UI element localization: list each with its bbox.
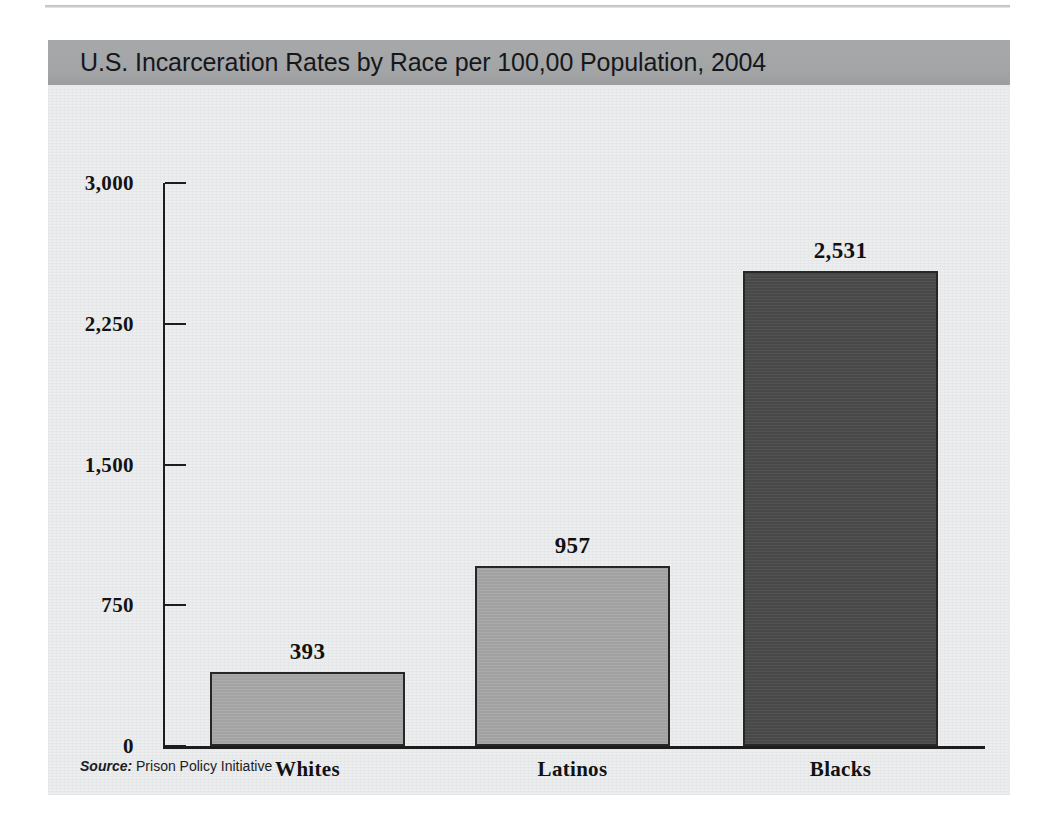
source-name: Prison Policy Initiative [136, 758, 272, 774]
x-axis-category-label: Latinos [475, 757, 670, 782]
y-axis-tick-label: 2,250 [85, 311, 134, 336]
bar-blacks[interactable] [743, 271, 938, 746]
x-axis-category-label: Blacks [743, 757, 938, 782]
bar-value-label: 957 [475, 533, 670, 559]
y-axis-tick [165, 745, 186, 747]
source-label: Source: [80, 758, 132, 774]
y-axis-tick [165, 323, 186, 325]
y-axis-tick-label: 0 [123, 734, 134, 759]
bar-value-label: 393 [210, 639, 405, 665]
x-axis-baseline [163, 746, 985, 749]
bar-latinos[interactable] [475, 566, 670, 746]
chart-title: U.S. Incarceration Rates by Race per 100… [80, 48, 766, 77]
y-axis-tick [165, 604, 186, 606]
bar-whites[interactable] [210, 672, 405, 746]
plot-area: 07501,5002,2503,000 393Whites957Latinos2… [48, 85, 1010, 795]
y-axis-tick-label: 1,500 [85, 452, 134, 477]
y-axis-tick-label: 750 [101, 593, 134, 618]
figure-panel: U.S. Incarceration Rates by Race per 100… [48, 40, 1010, 795]
top-divider-rule [45, 5, 1010, 8]
y-axis-tick [165, 464, 186, 466]
chart-title-band: U.S. Incarceration Rates by Race per 100… [48, 40, 1010, 85]
bar-value-label: 2,531 [743, 238, 938, 264]
y-axis-tick [165, 182, 186, 184]
y-axis-line [163, 183, 165, 748]
y-axis-tick-label: 3,000 [85, 171, 134, 196]
source-note: Source: Prison Policy Initiative [80, 758, 272, 774]
